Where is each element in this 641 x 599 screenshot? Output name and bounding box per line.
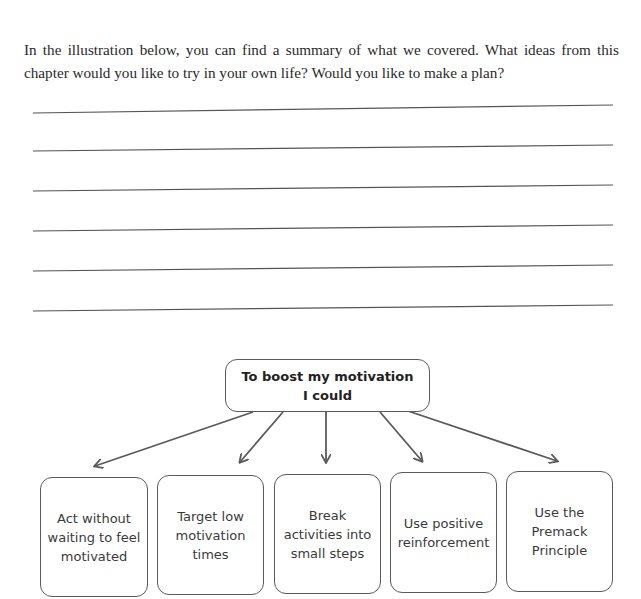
idea-label: Use positive reinforcement [395, 514, 492, 552]
arrow-to-reinforcement [380, 412, 422, 461]
idea-box-premack: Use the Premack Principle [506, 471, 613, 592]
idea-box-act: Act without waiting to feel motivated [40, 477, 148, 597]
idea-label: Use the Premack Principle [511, 503, 608, 560]
arrow-to-act [95, 412, 253, 466]
idea-label: Act without waiting to feel motivated [45, 509, 143, 566]
root-box: To boost my motivation I could [225, 359, 430, 412]
idea-box-reinforcement: Use positive reinforcement [390, 472, 497, 593]
root-line-2: I could [241, 386, 413, 405]
idea-box-break: Break activities into small steps [274, 474, 381, 594]
arrow-to-premack [405, 410, 557, 461]
idea-label: Target low motivation times [162, 507, 259, 564]
root-line-1: To boost my motivation [241, 367, 413, 386]
idea-box-target: Target low motivation times [157, 475, 264, 595]
arrow-to-target [240, 412, 283, 462]
idea-label: Break activities into small steps [279, 506, 376, 563]
